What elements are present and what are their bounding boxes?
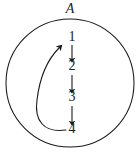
set-label-a: A (65, 1, 75, 16)
node-label-2: 2 (69, 58, 76, 73)
arrow-4-to-1-return-curve (36, 48, 66, 130)
node-label-3: 3 (69, 89, 76, 104)
node-label-4: 4 (69, 121, 76, 136)
diagram-canvas: A 1 2 3 4 (0, 0, 140, 153)
cycle-diagram-figure: A 1 2 3 4 (0, 0, 140, 153)
node-label-1: 1 (69, 29, 76, 44)
